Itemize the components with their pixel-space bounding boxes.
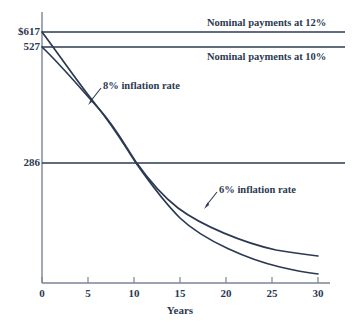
inflation-8-label: 8% inflation rate bbox=[103, 81, 180, 92]
chart-container: $617 527 286 0 5 10 15 20 25 30 Years No… bbox=[0, 0, 356, 324]
x-tick-label-20: 20 bbox=[216, 288, 236, 299]
x-tick-label-30: 30 bbox=[308, 288, 328, 299]
y-tick-label-527: 527 bbox=[0, 41, 40, 52]
y-tick-label-617: $617 bbox=[0, 26, 40, 37]
nominal-10-label: Nominal payments at 10% bbox=[207, 52, 326, 63]
nominal-12-label: Nominal payments at 12% bbox=[207, 18, 326, 29]
x-tick-label-5: 5 bbox=[78, 288, 98, 299]
x-tick-label-10: 10 bbox=[124, 288, 144, 299]
x-tick-label-0: 0 bbox=[32, 288, 52, 299]
chart-plot-area bbox=[0, 0, 356, 324]
x-tick-label-15: 15 bbox=[170, 288, 190, 299]
y-tick-label-286: 286 bbox=[0, 157, 40, 168]
x-axis-title: Years bbox=[150, 305, 210, 316]
inflation-6-label: 6% inflation rate bbox=[219, 185, 296, 196]
x-tick-label-25: 25 bbox=[262, 288, 282, 299]
